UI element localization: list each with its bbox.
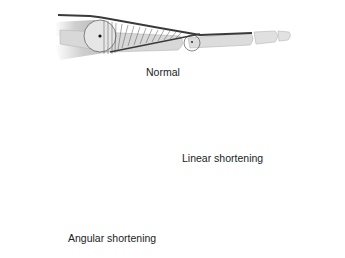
distal-phalanx — [278, 31, 290, 41]
joint-center-dot — [98, 34, 101, 37]
label-angular-shortening: Angular shortening — [68, 232, 156, 244]
label-linear-shortening: Linear shortening — [182, 152, 263, 164]
label-normal: Normal — [146, 66, 180, 78]
panel-normal — [55, 15, 290, 60]
middle-phalanx — [254, 31, 278, 44]
